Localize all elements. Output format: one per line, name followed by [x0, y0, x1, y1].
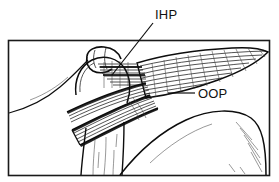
figure-container: IHP OOP — [0, 0, 279, 182]
label-oop: OOP — [198, 86, 228, 101]
anatomical-diagram: IHP OOP — [0, 0, 279, 182]
label-ihp: IHP — [155, 7, 177, 22]
